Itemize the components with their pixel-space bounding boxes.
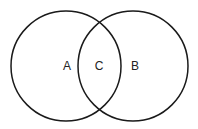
label-b: B (131, 59, 139, 73)
label-a: A (63, 59, 71, 73)
label-c-intersection: C (95, 59, 104, 73)
venn-diagram: A C B (0, 0, 198, 129)
